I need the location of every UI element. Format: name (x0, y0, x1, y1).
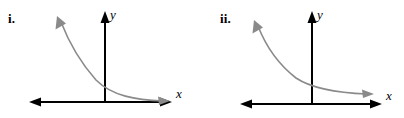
y-axis-ii (308, 11, 317, 105)
panel-ii-graph (202, 0, 404, 118)
y-axis-label-i: y (110, 8, 116, 21)
x-axis-arrow-left-ii (240, 100, 252, 109)
figure-root: i. x y ii. (0, 0, 404, 118)
panel-ii: ii. x y (202, 0, 404, 118)
decay-curve-arrow-start-i (56, 16, 67, 30)
x-axis-label-i: x (176, 87, 182, 100)
decay-curve-arrow-start-ii (253, 20, 264, 34)
y-axis-arrow-up-i (101, 11, 110, 23)
y-axis-arrow-up-ii (308, 11, 317, 23)
x-axis-i (29, 98, 172, 107)
x-axis-arrow-right-ii (370, 100, 382, 109)
panel-i: i. x y (0, 0, 202, 118)
decay-curve-path-i (61, 22, 163, 101)
decay-curve-ii (253, 20, 375, 98)
y-axis-label-ii: y (317, 8, 323, 21)
decay-curve-arrow-end-ii (362, 90, 374, 99)
panel-i-graph (0, 0, 202, 118)
decay-curve-i (56, 16, 171, 105)
x-axis-label-ii: x (386, 89, 392, 102)
x-axis-arrow-left-i (29, 98, 41, 107)
